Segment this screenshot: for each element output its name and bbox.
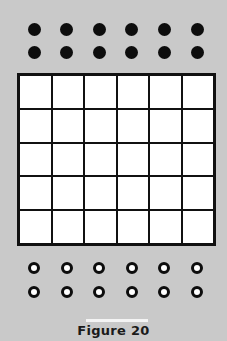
grid-cell [149,109,182,143]
figure-caption: Figure 20 [0,323,227,338]
grid-cell [84,210,117,244]
filled-dot [28,23,41,36]
open-circle [28,262,40,274]
open-circle [93,262,105,274]
open-circle [158,286,170,298]
filled-dot [191,23,204,36]
open-circle [28,286,40,298]
caption-rule [86,319,148,322]
grid-cell [117,75,150,109]
grid-cell [182,210,215,244]
grid-cell [19,176,52,210]
open-circle [191,286,203,298]
open-circle [126,286,138,298]
grid-cell [182,176,215,210]
grid-cell [19,210,52,244]
open-circle [61,262,73,274]
grid-cell [84,143,117,177]
grid-cell [149,75,182,109]
filled-dot [93,23,106,36]
grid-board [17,73,216,246]
filled-dot [158,23,171,36]
filled-dot [158,46,171,59]
grid-cell [117,176,150,210]
grid-cell [19,109,52,143]
filled-dot [125,46,138,59]
open-circle [158,262,170,274]
open-circle [61,286,73,298]
open-circle [191,262,203,274]
grid-cell [149,143,182,177]
grid-cell [182,75,215,109]
grid-cell [84,176,117,210]
grid-cell [19,143,52,177]
grid-cell [149,210,182,244]
grid-cell [117,109,150,143]
filled-dot [60,46,73,59]
grid-cell [19,75,52,109]
open-circle [93,286,105,298]
filled-dot [28,46,41,59]
grid-cell [52,210,85,244]
grid-cell [84,109,117,143]
grid-cell [117,143,150,177]
filled-dot [93,46,106,59]
grid-cell [117,210,150,244]
filled-dot [191,46,204,59]
grid-cell [182,109,215,143]
grid-cell [52,176,85,210]
grid-cell [182,143,215,177]
filled-dot [125,23,138,36]
grid-cell [84,75,117,109]
grid-cell [52,109,85,143]
open-circle [126,262,138,274]
filled-dot [60,23,73,36]
grid-cell [52,75,85,109]
grid-cell [149,176,182,210]
grid-cell [52,143,85,177]
